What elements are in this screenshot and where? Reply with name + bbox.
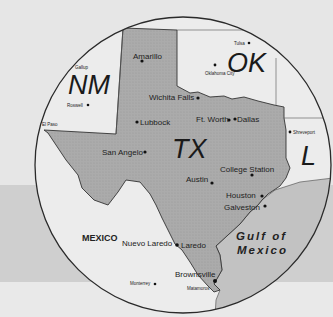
city-wichita-falls: Wichita Falls (149, 93, 194, 102)
city-austin: Austin (186, 175, 208, 184)
city-college-station: College Station (220, 165, 274, 174)
city-shreveport: Shreveport (293, 130, 316, 135)
city-nuevo-laredo: Nuevo Laredo (122, 239, 173, 248)
map-stage: NM OK TX L MEXICO Gulf of Mexico Amarill… (0, 0, 333, 317)
city-lubbock: Lubbock (140, 118, 171, 127)
label-gulf-line2: Mexico (237, 244, 288, 256)
city-matamoros: Matamoros (187, 286, 210, 291)
city-houston: Houston (226, 191, 256, 200)
city-amarillo: Amarillo (133, 52, 162, 61)
city-san-angelo: San Angelo (102, 148, 143, 157)
city-galveston: Galveston (224, 203, 260, 212)
city-fort-worth: Ft. Worth (196, 115, 229, 124)
label-la: L (301, 141, 316, 171)
city-el-paso: El Paso (42, 122, 58, 127)
city-tulsa: Tulsa (234, 41, 245, 46)
label-nm: NM (68, 70, 110, 100)
city-monterrey: Monterrey (130, 281, 151, 286)
label-mexico: MEXICO (82, 233, 118, 243)
city-laredo: Laredo (181, 241, 206, 250)
city-roswell: Roswell (67, 103, 83, 108)
texas-map: NM OK TX L MEXICO Gulf of Mexico Amarill… (0, 0, 333, 317)
label-tx: TX (172, 134, 207, 164)
city-brownsville: Brownsville (175, 270, 216, 279)
city-oklahoma-city: Oklahoma City (205, 71, 235, 76)
city-gallup: Gallup (75, 65, 89, 70)
city-dallas: Dallas (237, 115, 259, 124)
label-gulf-line1: Gulf of (236, 230, 287, 242)
